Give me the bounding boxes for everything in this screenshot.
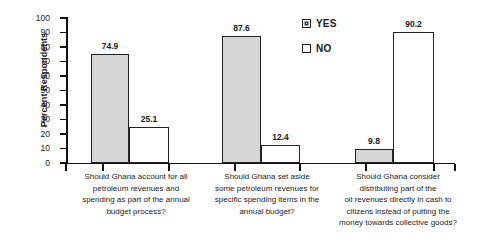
y-tick-label: 60 <box>41 72 50 81</box>
value-label-no-group3: 90.2 <box>387 20 440 29</box>
category-label-line: budget process? <box>62 206 210 218</box>
y-tick-label: 30 <box>41 115 50 124</box>
x-tick-mark <box>234 164 235 171</box>
y-tick-label: 90 <box>41 28 50 37</box>
category-label-line: oil revenues directly in cash to <box>318 194 478 206</box>
y-tick-label: 100 <box>36 14 50 23</box>
legend-item-yes[interactable]: YES <box>302 18 382 29</box>
category-label-line: citizens instead of putting the <box>318 206 478 218</box>
category-label-line: distributing part of the <box>318 183 478 195</box>
value-label-yes-group3: 9.8 <box>349 137 399 146</box>
bar-no-group2 <box>261 145 300 163</box>
y-tick-label: 20 <box>41 130 50 139</box>
x-tick-mark <box>433 164 434 171</box>
y-axis-tick-labels: 0102030405060708090100 <box>0 0 58 246</box>
category-label-line: spending as part of the annual <box>62 194 210 206</box>
legend-item-no[interactable]: NO <box>302 43 382 54</box>
category-label-1: Should Ghana account for allpetroleum re… <box>62 171 210 217</box>
legend-swatch-yes-icon <box>302 19 311 28</box>
y-tick-label: 40 <box>41 101 50 110</box>
x-tick-mark <box>365 164 366 171</box>
category-label-line: Should Ghana account for all <box>62 171 210 183</box>
y-tick-label: 50 <box>41 86 50 95</box>
category-label-line: petroleum revenues and <box>62 183 210 195</box>
legend-swatch-no-icon <box>302 44 311 53</box>
x-tick-mark <box>299 164 300 171</box>
x-tick-mark <box>65 164 66 171</box>
chart-legend: YES NO <box>302 18 382 68</box>
legend-label-yes: YES <box>316 18 337 29</box>
bar-no-group1 <box>129 127 169 163</box>
value-label-yes-group1: 74.9 <box>85 42 135 51</box>
category-label-line: money towards collective goods? <box>318 217 478 229</box>
legend-label-no: NO <box>316 43 331 54</box>
y-tick-label: 70 <box>41 57 50 66</box>
bar-chart-figure: Percent Respondents 01020304050607080901… <box>0 0 478 246</box>
category-label-3: Should Ghana considerdistributing part o… <box>318 171 478 229</box>
value-label-no-group1: 25.1 <box>123 115 175 124</box>
value-label-no-group2: 12.4 <box>255 133 306 142</box>
y-tick-label: 10 <box>41 144 50 153</box>
bar-yes-group1 <box>91 54 129 163</box>
bar-no-group3 <box>393 32 434 163</box>
bar-yes-group3 <box>355 149 393 163</box>
x-tick-mark <box>168 164 169 171</box>
y-tick-label: 80 <box>41 43 50 52</box>
value-label-yes-group2: 87.6 <box>216 24 267 33</box>
category-label-line: Should Ghana consider <box>318 171 478 183</box>
x-tick-mark <box>454 164 455 171</box>
bar-yes-group2 <box>222 36 261 163</box>
y-tick-label: 0 <box>45 159 50 168</box>
x-tick-mark <box>102 164 103 171</box>
